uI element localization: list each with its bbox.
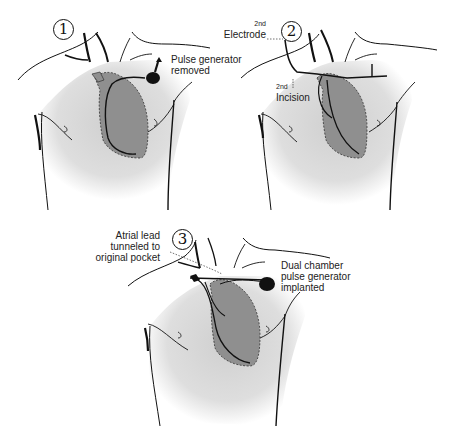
panel-step-2: 2 2nd Electrode 2nd Incision (227, 0, 454, 216)
label-atrial-lead-tunneled: Atrial lead tunneled to original pocket (80, 230, 160, 263)
label-second-incision: 2nd Incision (276, 80, 310, 103)
panel-step-3: 3 Atrial lead tunneled to original pocke… (100, 216, 354, 432)
label-second-electrode: 2nd Electrode (192, 17, 266, 40)
step-number-3: 3 (172, 229, 193, 250)
step-number-2: 2 (281, 21, 302, 42)
step-number-1: 1 (53, 19, 74, 40)
label-dual-chamber-implanted: Dual chamber pulse generator implanted (281, 260, 351, 293)
dual-chamber-generator-icon (259, 277, 275, 291)
pulse-generator-icon (146, 72, 160, 84)
arrow-up-icon (156, 57, 162, 62)
